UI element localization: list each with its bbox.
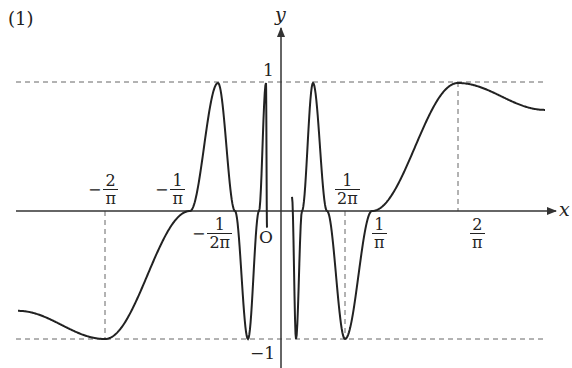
part-label: (1) bbox=[8, 10, 34, 28]
y-tick-1: 1 bbox=[263, 62, 274, 79]
x-tick-neg-one-over-two-pi: − 12π bbox=[192, 216, 232, 251]
x-tick-neg-two-over-pi: − 2π bbox=[88, 172, 118, 207]
x-tick-one-over-two-pi: 12π bbox=[333, 172, 360, 207]
x-axis-label: x bbox=[559, 200, 570, 219]
y-axis-label: y bbox=[275, 5, 286, 24]
x-tick-one-over-pi: 1π bbox=[370, 216, 387, 251]
y-tick-minus-1: −1 bbox=[250, 345, 275, 362]
origin-label: O bbox=[259, 229, 273, 246]
graph-canvas bbox=[0, 0, 572, 368]
x-tick-neg-one-over-pi: − 1π bbox=[155, 172, 185, 207]
x-tick-two-over-pi: 2π bbox=[468, 216, 485, 251]
